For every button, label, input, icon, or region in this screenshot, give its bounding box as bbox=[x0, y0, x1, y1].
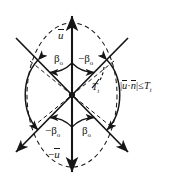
tt-sub: t bbox=[98, 87, 100, 94]
solid-arc-right bbox=[107, 60, 120, 130]
label-beta-top-left: βo bbox=[54, 53, 63, 67]
beta-bottom-left-sub: o bbox=[57, 131, 60, 138]
u-top-text: u bbox=[58, 29, 64, 41]
ineq-u: u bbox=[122, 80, 127, 92]
beta-top-right-sub: o bbox=[90, 59, 93, 66]
center-dot bbox=[69, 92, 75, 98]
label-u-top: u bbox=[58, 29, 64, 41]
ineq-n: n bbox=[131, 80, 136, 92]
label-tt: Tt bbox=[92, 82, 99, 94]
beta-bottom-right-sub: o bbox=[88, 131, 91, 138]
label-beta-top-right: −βo bbox=[78, 53, 93, 67]
ineq-T-sub: t bbox=[150, 86, 152, 93]
label-beta-bottom-left: −βo bbox=[45, 125, 60, 139]
angle-arc-tt bbox=[100, 67, 104, 80]
label-beta-bottom-right: βo bbox=[82, 125, 91, 139]
inequality-expression: |u·n|≤Tt bbox=[120, 80, 152, 94]
label-u-bottom: −u bbox=[48, 148, 60, 160]
u-bottom-text: u bbox=[54, 148, 60, 160]
beta-top-left-sub: o bbox=[60, 59, 63, 66]
